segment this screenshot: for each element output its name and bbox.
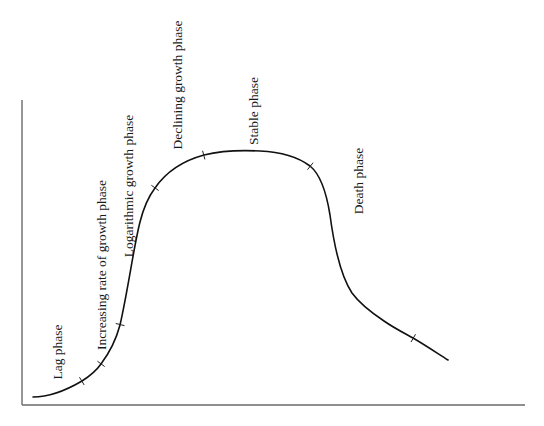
phase-tick-mark — [79, 377, 84, 385]
phase-tick-mark — [97, 361, 104, 366]
label-death-phase: Death phase — [351, 148, 366, 214]
growth-curve-diagram: Lag phase Increasing rate of growth phas… — [0, 0, 544, 426]
label-stable-phase: Stable phase — [246, 77, 261, 145]
phase-labels: Lag phase Increasing rate of growth phas… — [50, 21, 366, 380]
label-logarithmic-phase: Logarithmic growth phase — [121, 115, 136, 257]
label-declining-phase: Declining growth phase — [170, 21, 185, 150]
label-increasing-rate-phase: Increasing rate of growth phase — [94, 180, 109, 350]
label-lag-phase: Lag phase — [50, 324, 65, 379]
phase-tick-mark — [151, 185, 158, 190]
